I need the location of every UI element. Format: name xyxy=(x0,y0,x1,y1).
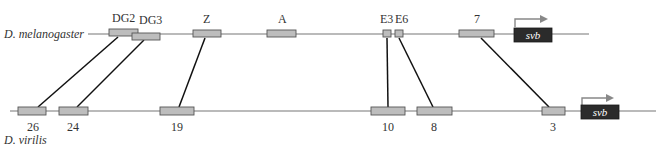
species-label-melanogaster: D. melanogaster xyxy=(3,27,84,41)
melanogaster-svb-gene: svb xyxy=(514,15,552,42)
enhancer-box-7 xyxy=(459,30,494,37)
enhancer-label-a: A xyxy=(278,12,287,26)
homology-links xyxy=(38,37,549,107)
tss-arrow-top xyxy=(515,19,542,27)
enhancer-label-8: 8 xyxy=(431,120,437,134)
enhancer-label-dg3: DG3 xyxy=(139,13,162,27)
svb-enhancer-comparison-diagram: D. melanogaster D. virilis DG2 DG3 Z A E… xyxy=(0,0,664,146)
enhancer-box-19 xyxy=(160,107,194,115)
melanogaster-enhancers: DG2 DG3 Z A E3 E6 7 xyxy=(109,11,494,40)
enhancer-label-10: 10 xyxy=(382,120,394,134)
enhancer-box-dg3 xyxy=(132,33,160,40)
enhancer-label-19: 19 xyxy=(171,120,183,134)
enhancer-label-7: 7 xyxy=(474,12,480,26)
arrowhead-icon xyxy=(540,15,548,23)
arrowhead-icon xyxy=(606,94,614,102)
link-7-3 xyxy=(481,38,549,107)
enhancer-label-z: Z xyxy=(203,12,210,26)
enhancer-label-26: 26 xyxy=(27,120,39,134)
enhancer-box-a xyxy=(267,30,296,37)
link-z-19 xyxy=(179,38,205,107)
tss-arrow-bottom xyxy=(582,98,608,105)
species-label-virilis: D. virilis xyxy=(3,133,47,146)
link-dg2-26 xyxy=(38,37,118,107)
enhancer-label-e3: E3 xyxy=(380,12,393,26)
enhancer-box-26 xyxy=(18,107,46,115)
enhancer-label-e6: E6 xyxy=(395,12,408,26)
svb-gene-label-bottom: svb xyxy=(593,106,608,118)
link-dg3-24 xyxy=(77,40,144,107)
svb-gene-label-top: svb xyxy=(526,29,541,41)
enhancer-box-z xyxy=(193,30,221,37)
enhancer-label-3: 3 xyxy=(550,120,556,134)
link-e6-8 xyxy=(399,38,433,107)
virilis-svb-gene: svb xyxy=(581,94,619,119)
enhancer-box-3 xyxy=(542,107,565,115)
enhancer-box-e3 xyxy=(383,30,391,37)
enhancer-box-8 xyxy=(417,107,452,115)
enhancer-box-e6 xyxy=(395,30,403,37)
enhancer-box-10 xyxy=(371,107,405,115)
enhancer-label-dg2: DG2 xyxy=(112,11,135,25)
enhancer-box-24 xyxy=(59,107,88,115)
link-e3-10 xyxy=(387,38,388,107)
enhancer-label-24: 24 xyxy=(67,120,79,134)
